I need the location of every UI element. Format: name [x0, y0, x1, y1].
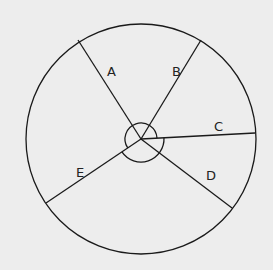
label-a: A — [107, 64, 116, 79]
radius-a — [78, 40, 141, 139]
label-d: D — [206, 168, 216, 183]
label-e: E — [76, 165, 84, 180]
label-c: C — [214, 119, 223, 134]
radius-b — [141, 40, 201, 139]
angle-arc-large — [122, 138, 164, 162]
radius-c — [141, 133, 255, 139]
angle-arc-small — [125, 123, 157, 148]
radius-d — [141, 139, 232, 208]
label-b: B — [172, 64, 181, 79]
sector-diagram: ABCDE — [0, 0, 273, 270]
radius-e — [46, 139, 141, 203]
